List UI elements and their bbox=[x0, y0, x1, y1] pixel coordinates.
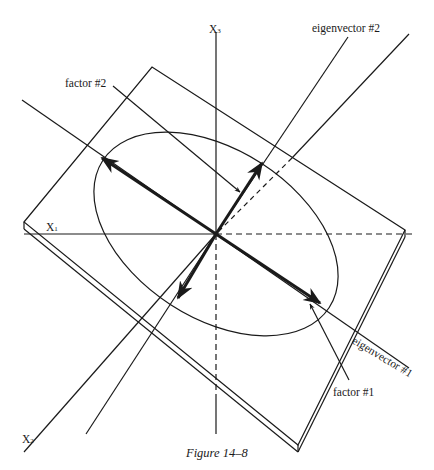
x2-axis bbox=[24, 234, 216, 452]
projection-line bbox=[292, 34, 409, 158]
eigenvector-2-label: eigenvector #2 bbox=[312, 23, 380, 35]
figure-caption: Figure 14–8 bbox=[186, 447, 248, 460]
factor-1-arrow-right bbox=[216, 234, 320, 303]
diagram-canvas bbox=[0, 0, 434, 470]
x1-axis-label: X1 bbox=[46, 222, 58, 234]
factor-2-arrow-down bbox=[178, 234, 216, 298]
factor-1-label: factor #1 bbox=[333, 387, 374, 399]
origin-point bbox=[214, 232, 219, 237]
factor-1-leader bbox=[310, 304, 349, 380]
x2-axis-label: X2 bbox=[22, 434, 34, 446]
factor-2-label: factor #2 bbox=[65, 78, 106, 90]
x3-axis-label: X3 bbox=[209, 24, 221, 36]
projection-line-hidden bbox=[216, 158, 292, 234]
factor-1-arrow-left bbox=[102, 158, 216, 234]
factor-2-arrow-up bbox=[216, 163, 262, 234]
